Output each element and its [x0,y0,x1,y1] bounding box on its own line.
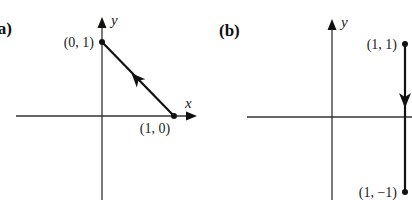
panel-a-point-end [171,113,177,119]
panel-a-point-label-1-0: (1, 0) [140,121,171,137]
panel-b-point-start [402,41,408,47]
panel-b-y-axis-label: y [339,14,348,30]
panel-a-point-label-0-1: (0, 1) [64,35,95,51]
panel-a-x-axis-label: x [184,95,192,111]
panel-a-x-axis-arrow-icon [186,112,197,121]
panel-b-label: (b) [219,21,240,40]
panel-b-point-label-1-1: (1, 1) [367,37,398,53]
panel-b-y-axis-arrow-icon [328,19,337,30]
panel-a-y-axis-arrow-icon [98,17,107,28]
panel-b-point-end [402,189,408,195]
panel-a-y-axis-label: y [109,12,118,28]
panel-b: (b) y (1, 1) (1, −1) [219,14,412,200]
panel-a-label: (a) [0,19,12,38]
panel-b-point-label-1-neg1: (1, −1) [359,185,398,200]
panel-a: (a) y x (0, 1) (1, 0) [0,12,197,200]
figure: (a) y x (0, 1) (1, 0) (b) y (1, 1) [0,0,412,200]
panel-a-point-start [99,39,105,45]
